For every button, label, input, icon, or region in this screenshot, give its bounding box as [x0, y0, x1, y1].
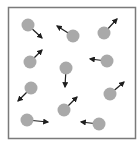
- particle-circle: [25, 82, 38, 95]
- particle-circle: [60, 62, 73, 75]
- particle: [24, 50, 43, 69]
- particle-circle: [93, 118, 106, 131]
- particle: [90, 55, 114, 68]
- particle: [81, 118, 106, 131]
- particle-circle: [67, 30, 80, 43]
- particle-circle: [98, 27, 111, 40]
- particle: [60, 62, 73, 88]
- particle-circle: [21, 114, 34, 127]
- particle-circle: [22, 19, 35, 32]
- gas-particles-diagram: [0, 0, 140, 149]
- particle: [18, 82, 38, 102]
- particle: [104, 82, 125, 101]
- particle: [22, 19, 43, 39]
- particle-circle: [104, 88, 117, 101]
- particle-circle: [58, 104, 71, 117]
- particle: [58, 97, 78, 117]
- particles-group: [18, 19, 124, 131]
- particle: [21, 114, 49, 127]
- particle-circle: [24, 56, 37, 69]
- particle-circle: [101, 55, 114, 68]
- particle: [57, 26, 80, 43]
- particle: [98, 19, 118, 40]
